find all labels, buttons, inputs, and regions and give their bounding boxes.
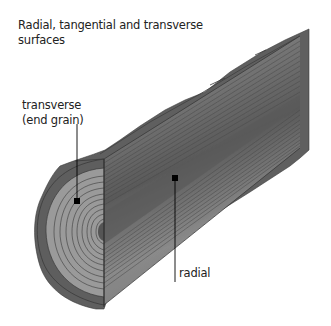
radial-marker: [172, 175, 178, 181]
log-illustration: [0, 0, 331, 326]
transverse-marker: [74, 198, 80, 204]
